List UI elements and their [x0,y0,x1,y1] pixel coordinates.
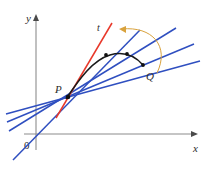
axes-group: y x 0 [24,12,198,154]
tangent-line-label: t [97,22,100,33]
points-group: P Q [54,52,154,99]
x-axis-label: x [192,142,198,154]
point-Q-dot [141,63,145,67]
point-P-label: P [54,83,62,95]
secant-line-3 [7,44,194,122]
point-Q2-dot [125,52,129,56]
point-Q1-dot [104,53,108,57]
point-P-dot [66,95,71,100]
figure-container: y x 0 t P [0,0,213,169]
tangent-line-t [56,23,112,118]
secant-lines-group [6,28,200,160]
geometry-figure: y x 0 t P [0,0,213,169]
y-axis-label: y [25,12,31,24]
arc-arrowhead-icon [119,26,126,33]
secant-line-4 [6,61,200,114]
y-axis-arrowhead [33,14,39,21]
tangent-line-group: t [56,22,112,118]
x-axis-arrowhead [191,131,198,137]
point-Q-label: Q [146,70,154,82]
